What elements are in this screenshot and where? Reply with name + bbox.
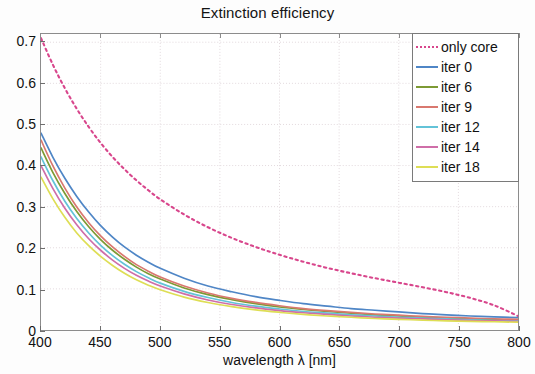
x-tick-label: 400: [10, 334, 70, 350]
legend-line-icon: [416, 101, 438, 113]
page-title: Extinction efficiency: [0, 4, 535, 21]
y-tick-label: 0.1: [0, 282, 36, 298]
legend-line-icon: [416, 41, 438, 53]
legend-item-iter-14[interactable]: iter 14: [413, 137, 518, 157]
y-tick-label: 0.6: [0, 75, 36, 91]
y-tick-label: 0.3: [0, 199, 36, 215]
y-tick-label: 0.2: [0, 240, 36, 256]
legend-item-label: iter 18: [438, 159, 480, 175]
x-tick-label: 550: [190, 334, 250, 350]
x-axis-title: wavelength λ [nm]: [40, 352, 519, 368]
legend-item-only-core[interactable]: only core: [413, 37, 518, 57]
legend-line-icon: [416, 61, 438, 73]
legend-item-label: iter 9: [438, 99, 472, 115]
x-tick-label: 750: [429, 334, 489, 350]
legend-item-label: iter 0: [438, 59, 472, 75]
legend-item-label: iter 6: [438, 79, 472, 95]
x-tick-mark-top: [519, 33, 520, 38]
x-tick-label: 500: [130, 334, 190, 350]
legend-item-iter-6[interactable]: iter 6: [413, 77, 518, 97]
y-tick-label: 0.5: [0, 116, 36, 132]
legend-item-iter-0[interactable]: iter 0: [413, 57, 518, 77]
x-tick-label: 650: [309, 334, 369, 350]
x-tick-label: 700: [369, 334, 429, 350]
curve-iter-14: [41, 166, 518, 322]
legend: only coreiter 0iter 6iter 9iter 12iter 1…: [412, 33, 519, 182]
x-tick-label: 450: [70, 334, 130, 350]
legend-line-icon: [416, 81, 438, 93]
y-tick-label: 0: [0, 323, 36, 339]
y-tick-mark: [40, 331, 45, 332]
legend-item-label: iter 14: [438, 139, 480, 155]
legend-line-icon: [416, 161, 438, 173]
y-tick-label: 0.7: [0, 33, 36, 49]
legend-item-iter-18[interactable]: iter 18: [413, 157, 518, 177]
y-tick-label: 0.4: [0, 157, 36, 173]
x-tick-mark: [519, 326, 520, 331]
legend-item-iter-9[interactable]: iter 9: [413, 97, 518, 117]
legend-line-icon: [416, 141, 438, 153]
legend-item-iter-12[interactable]: iter 12: [413, 117, 518, 137]
legend-item-label: iter 12: [438, 119, 480, 135]
x-tick-label: 800: [489, 334, 535, 350]
chart-figure: Extinction efficiency 00.10.20.30.40.50.…: [0, 0, 535, 374]
legend-item-label: only core: [438, 39, 498, 55]
legend-line-icon: [416, 121, 438, 133]
x-tick-label: 600: [250, 334, 310, 350]
